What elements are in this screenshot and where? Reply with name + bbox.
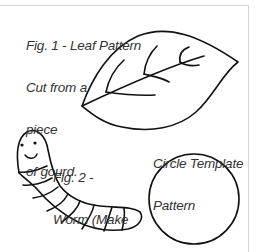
leaf-caption-line: Cut from a bbox=[26, 81, 141, 95]
circle-caption: Circle Template Pattern bbox=[153, 129, 243, 227]
circle-caption-line: Pattern bbox=[153, 199, 243, 213]
worm-caption: Fig. 2 - Worm (Make from a gourd stem.) bbox=[53, 143, 128, 252]
worm-caption-line: Worm (Make bbox=[53, 213, 128, 227]
leaf-caption-line: piece bbox=[26, 123, 141, 137]
worm-caption-line: Fig. 2 - bbox=[53, 171, 128, 185]
worm-eye-left-icon bbox=[20, 143, 23, 146]
leaf-caption-line: Fig. 1 - Leaf Pattern bbox=[26, 39, 141, 53]
circle-caption-line: Circle Template bbox=[153, 157, 243, 171]
